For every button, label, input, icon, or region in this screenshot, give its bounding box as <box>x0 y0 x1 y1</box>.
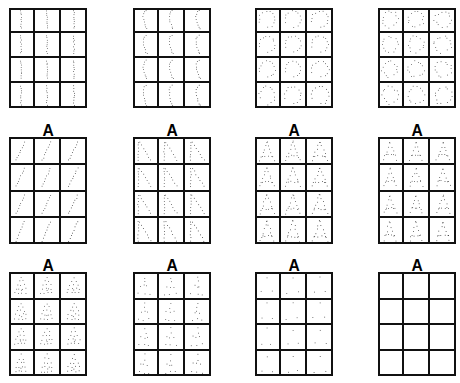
pattern-panel-2 <box>133 8 211 108</box>
pattern-cell <box>61 8 87 33</box>
pattern-cell <box>133 58 159 83</box>
panel-header-10: A <box>133 258 211 274</box>
pattern-cell <box>430 325 456 351</box>
pattern-cell <box>255 139 281 165</box>
panel-cell-grid-2 <box>133 8 211 108</box>
panel-header-8: A <box>378 123 456 139</box>
dot-pattern-sheet: AAAAAAAA <box>0 0 460 383</box>
pattern-cell <box>159 165 185 191</box>
pattern-cell <box>61 351 87 377</box>
pattern-cell <box>9 325 35 351</box>
pattern-cell <box>9 165 35 191</box>
pattern-cell <box>61 274 87 300</box>
pattern-cell <box>9 218 35 244</box>
pattern-cell <box>378 325 404 351</box>
pattern-cell <box>281 218 307 244</box>
pattern-cell <box>430 218 456 244</box>
pattern-cell <box>133 165 159 191</box>
pattern-cell <box>378 139 404 165</box>
pattern-cell <box>255 83 281 108</box>
pattern-cell <box>404 274 430 300</box>
pattern-cell <box>307 351 333 377</box>
pattern-cell <box>378 165 404 191</box>
pattern-cell <box>185 165 211 191</box>
panel-header-7: A <box>255 123 333 139</box>
pattern-cell <box>281 300 307 326</box>
panel-header-label: A <box>411 257 422 274</box>
pattern-cell <box>255 33 281 58</box>
pattern-cell <box>307 192 333 218</box>
pattern-cell <box>404 165 430 191</box>
pattern-cell <box>281 274 307 300</box>
panel-header-label: A <box>42 122 53 139</box>
pattern-cell <box>133 351 159 377</box>
pattern-cell <box>430 165 456 191</box>
panel-header-label: A <box>166 257 177 274</box>
pattern-cell <box>404 58 430 83</box>
pattern-cell <box>159 8 185 33</box>
pattern-cell <box>9 300 35 326</box>
pattern-cell <box>281 192 307 218</box>
pattern-cell <box>430 8 456 33</box>
pattern-cell <box>9 83 35 108</box>
pattern-cell <box>185 58 211 83</box>
pattern-panel-9: A <box>9 258 87 376</box>
pattern-cell <box>133 33 159 58</box>
pattern-cell <box>185 300 211 326</box>
pattern-panel-12: A <box>378 258 456 376</box>
pattern-cell <box>159 274 185 300</box>
pattern-cell <box>255 351 281 377</box>
panel-cell-grid-7 <box>255 139 333 244</box>
panel-cell-grid-4 <box>378 8 456 108</box>
pattern-cell <box>35 300 61 326</box>
pattern-cell <box>281 139 307 165</box>
pattern-cell <box>61 218 87 244</box>
pattern-cell <box>61 325 87 351</box>
pattern-cell <box>35 218 61 244</box>
pattern-cell <box>255 58 281 83</box>
pattern-cell <box>404 218 430 244</box>
pattern-panel-1 <box>9 8 87 108</box>
pattern-cell <box>404 351 430 377</box>
pattern-cell <box>255 325 281 351</box>
pattern-cell <box>430 351 456 377</box>
pattern-cell <box>404 300 430 326</box>
pattern-cell <box>378 300 404 326</box>
pattern-cell <box>404 33 430 58</box>
pattern-cell <box>133 274 159 300</box>
pattern-cell <box>378 83 404 108</box>
pattern-cell <box>281 58 307 83</box>
pattern-cell <box>159 192 185 218</box>
panel-cell-grid-12 <box>378 274 456 376</box>
pattern-cell <box>307 139 333 165</box>
pattern-cell <box>35 325 61 351</box>
pattern-cell <box>61 192 87 218</box>
pattern-cell <box>9 192 35 218</box>
pattern-cell <box>430 58 456 83</box>
panel-header-label: A <box>288 257 299 274</box>
pattern-cell <box>378 351 404 377</box>
pattern-cell <box>35 274 61 300</box>
pattern-cell <box>159 83 185 108</box>
pattern-cell <box>378 192 404 218</box>
pattern-cell <box>159 58 185 83</box>
panel-header-5: A <box>9 123 87 139</box>
pattern-cell <box>281 165 307 191</box>
pattern-cell <box>378 58 404 83</box>
pattern-panel-4 <box>378 8 456 108</box>
pattern-cell <box>9 8 35 33</box>
pattern-cell <box>61 83 87 108</box>
pattern-cell <box>404 139 430 165</box>
pattern-cell <box>9 58 35 83</box>
pattern-cell <box>281 8 307 33</box>
pattern-cell <box>307 274 333 300</box>
pattern-cell <box>35 192 61 218</box>
panel-header-label: A <box>42 257 53 274</box>
pattern-cell <box>255 192 281 218</box>
pattern-cell <box>133 8 159 33</box>
panel-cell-grid-1 <box>9 8 87 108</box>
pattern-panel-7: A <box>255 123 333 244</box>
pattern-cell <box>185 325 211 351</box>
pattern-cell <box>35 33 61 58</box>
pattern-cell <box>159 139 185 165</box>
